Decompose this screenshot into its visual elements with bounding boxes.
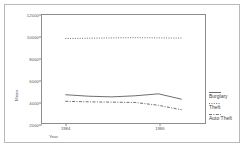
y-axis-tick-label: 2000 xyxy=(29,123,39,128)
legend-label: Theft xyxy=(209,104,220,110)
legend-label: Auto Theft xyxy=(209,115,232,121)
legend-label: Burglary xyxy=(209,93,228,99)
x-axis-tick-label: 1984 xyxy=(61,126,70,131)
legend-item: Theft xyxy=(209,100,243,111)
y-axis-tick-label: 8000 xyxy=(29,57,39,62)
x-axis-title: Year xyxy=(49,134,58,139)
series-line-burglary xyxy=(65,94,181,99)
y-axis-tick-label: 10000 xyxy=(27,35,39,40)
series-line-theft xyxy=(65,38,181,39)
y-axis-tick-label: 6000 xyxy=(29,79,39,84)
x-axis-tick-mark xyxy=(65,123,66,126)
legend-item: Auto Theft xyxy=(209,111,243,122)
series-layer xyxy=(42,15,205,123)
chart-figure: Mean Year 200040006000800010000120001984… xyxy=(4,4,240,143)
y-axis-title: Mean xyxy=(14,90,19,101)
y-axis-tick-label: 12000 xyxy=(27,13,39,18)
x-axis-tick-label: 1986 xyxy=(155,126,164,131)
y-axis-tick-mark xyxy=(39,125,42,126)
plot-area: 2000400060008000100001200019841986 xyxy=(41,14,206,124)
chart-legend: BurglaryTheftAuto Theft xyxy=(209,89,243,122)
y-axis-tick-label: 4000 xyxy=(29,101,39,106)
series-line-auto-theft xyxy=(65,101,181,110)
x-axis-tick-mark xyxy=(159,123,160,126)
legend-item: Burglary xyxy=(209,89,243,100)
